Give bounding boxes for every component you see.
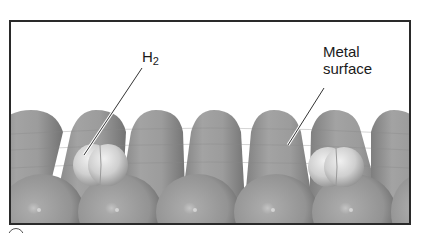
h2-label: H2 — [142, 48, 159, 70]
metal-surface-label-line2: surface — [323, 60, 372, 77]
h2-molecule-left — [73, 144, 128, 186]
metal-surface-label-line1: Metal — [323, 43, 372, 60]
h2-label-main: H — [142, 48, 153, 65]
h2-label-subscript: 2 — [153, 55, 159, 67]
h2-molecule-right — [308, 147, 364, 187]
caption-marker-icon — [8, 228, 24, 233]
metal-surface-label: Metal surface — [323, 43, 372, 77]
